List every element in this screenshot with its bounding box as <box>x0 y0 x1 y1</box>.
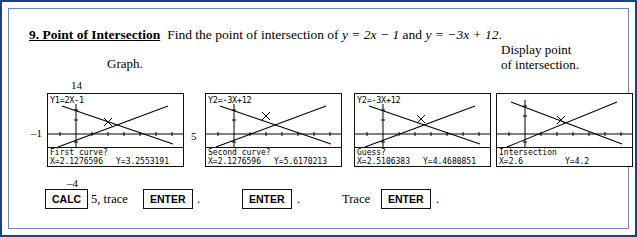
calc-4-readout: Intersection X=2.6 Y=4.2 <box>497 147 632 166</box>
axis-note-ymin: –4 <box>67 177 78 189</box>
problem-equation-1: y = 2x − 1 <box>342 27 399 42</box>
calc-2-readout: Second curve? X=2.1276596 Y=5.6170213 <box>206 147 341 166</box>
calc-screen-2: Y2=-3X+12 Second curve? X=2.1276596 Y=5.… <box>205 93 342 167</box>
trace-instruction: Trace <box>342 192 370 207</box>
calc-2-x: X=2.1276596 <box>208 157 261 166</box>
calc-2-coords: X=2.1276596 Y=5.6170213 <box>208 157 261 166</box>
key-instruction-row: CALC 5, trace ENTER . ENTER . Trace ENTE… <box>9 189 628 219</box>
calc-4-x: X=2.6 <box>499 157 523 166</box>
calc-1-readout: First curve? X=2.1276596 Y=3.2553191 <box>48 147 183 166</box>
calc-2-y: Y=5.6170213 <box>274 157 327 166</box>
worksheet-inner-frame: 9. Point of IntersectionFind the point o… <box>8 8 629 229</box>
enter-key-button-1[interactable]: ENTER <box>143 189 193 209</box>
calc-1-y: Y=3.2553191 <box>116 157 169 166</box>
enter-key-button-3[interactable]: ENTER <box>381 189 431 209</box>
enter-key-button-2[interactable]: ENTER <box>242 189 292 209</box>
problem-conjunction: and <box>399 27 425 42</box>
calc-3-readout: Guess? X=2.5106383 Y=4.4680851 <box>355 147 490 166</box>
enter-3-period: . <box>436 192 439 207</box>
axis-note-ymax: 14 <box>71 79 82 91</box>
calc-1-coords: X=2.1276596 Y=3.2553191 <box>50 157 103 166</box>
problem-number: 9. Point of Intersection <box>29 27 160 42</box>
problem-text: Find the point of intersection of <box>167 27 342 42</box>
calc-4-coords: X=2.6 Y=4.2 <box>499 157 523 166</box>
problem-equation-2: y = −3x + 12 <box>425 27 498 42</box>
calc-1-equation: Y1=2X-1 <box>50 95 84 105</box>
problem-period: . <box>499 27 502 42</box>
enter-2-period: . <box>297 192 300 207</box>
calc-3-coords: X=2.5106383 Y=4.4680851 <box>357 157 410 166</box>
calc-3-y: Y=4.4680851 <box>423 157 476 166</box>
display-intersection-line1: Display point <box>501 42 579 57</box>
calc-2-equation: Y2=-3X+12 <box>208 95 251 105</box>
axis-note-xmax: 5 <box>191 130 197 142</box>
problem-statement: 9. Point of IntersectionFind the point o… <box>29 27 502 43</box>
enter-1-period: . <box>197 192 200 207</box>
calc-4-prompt: Intersection <box>499 148 557 157</box>
calc-1-prompt: First curve? <box>50 148 108 157</box>
display-intersection-line2: of intersection. <box>501 57 579 72</box>
calc-1-x: X=2.1276596 <box>50 157 103 166</box>
calc-4-y: Y=4.2 <box>565 157 589 166</box>
calc-3-x: X=2.5106383 <box>357 157 410 166</box>
calc-screen-4: Intersection X=2.6 Y=4.2 <box>496 93 633 167</box>
calc-key-button[interactable]: CALC <box>45 189 88 209</box>
graph-label: Graph. <box>107 56 143 72</box>
calc-screen-3: Y2=-3X+12 Guess? X=2.5106383 Y=4.4680851 <box>354 93 491 167</box>
calc-3-equation: Y2=-3X+12 <box>357 95 400 105</box>
calc-2-prompt: Second curve? <box>208 148 271 157</box>
display-intersection-label: Display point of intersection. <box>501 42 579 72</box>
worksheet-page: 9. Point of IntersectionFind the point o… <box>0 0 637 237</box>
calc-screen-1: Y1=2X-1 First curve? X=2.1276596 Y=3.255… <box>47 93 184 167</box>
calc-key-instruction: 5, trace <box>91 192 128 207</box>
axis-note-xmin: –1 <box>31 127 42 139</box>
calc-3-prompt: Guess? <box>357 148 386 157</box>
